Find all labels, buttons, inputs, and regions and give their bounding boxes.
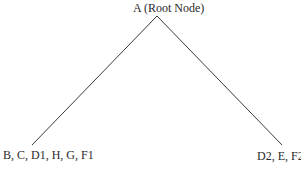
left-child-node-label: B, C, D1, H, G, F1	[3, 148, 94, 162]
root-node-label: A (Root Node)	[133, 1, 204, 15]
edge-root-to-right-child	[157, 16, 282, 145]
tree-edges	[0, 0, 301, 171]
right-child-node-label: D2, E, F2	[257, 149, 301, 163]
edge-root-to-left-child	[32, 16, 157, 145]
